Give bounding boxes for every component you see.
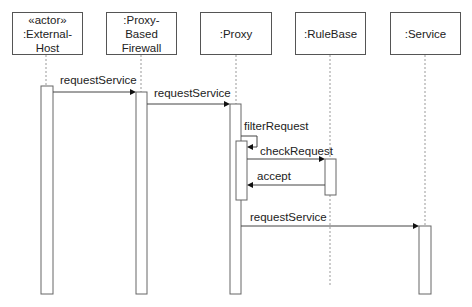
activation-proxy-nested [236, 141, 247, 200]
message-label-request-service-3: requestService [250, 211, 327, 224]
arrowhead-icon [247, 144, 253, 150]
object-name: :Proxy [220, 27, 253, 41]
object-proxy-firewall: :Proxy- Based Firewall [106, 12, 177, 55]
object-name: :RuleBase [304, 27, 357, 41]
object-name: :Service [405, 27, 447, 41]
message-label-request-service-2: requestService [154, 87, 231, 100]
activation-external-host [41, 86, 53, 294]
message-label-check-request: checkRequest [260, 145, 333, 158]
object-name: Based [122, 27, 162, 41]
object-name: Firewall [122, 41, 162, 55]
object-service: :Service [390, 12, 461, 55]
object-name: Host [23, 41, 72, 55]
object-external-host: «actor» :External- Host [12, 12, 83, 55]
object-name: :Proxy- [122, 13, 162, 27]
stereotype-label: «actor» [23, 13, 72, 27]
object-rulebase: :RuleBase [295, 12, 366, 55]
message-label-request-service-1: requestService [60, 74, 137, 87]
object-name: :External- [23, 27, 72, 41]
arrowhead-icon [130, 89, 136, 95]
activation-rulebase [325, 159, 336, 195]
activation-proxy-firewall [136, 92, 147, 294]
message-label-accept: accept [257, 170, 291, 183]
arrowhead-icon [224, 101, 230, 107]
message-label-filter-request: filterRequest [244, 120, 309, 133]
activation-service [419, 226, 431, 294]
object-proxy: :Proxy [200, 12, 272, 55]
arrowhead-icon [413, 223, 419, 229]
arrowhead-icon [247, 182, 253, 188]
